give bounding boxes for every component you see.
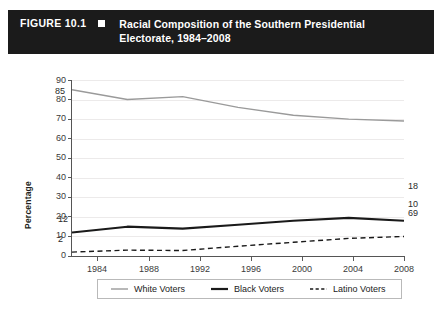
x-tick-label-1988: 1988 (129, 264, 169, 274)
y-axis-title: Percentage (23, 160, 33, 250)
x-tick-label-2000: 2000 (282, 264, 322, 274)
legend-label-latino-voters: Latino Voters (333, 284, 386, 294)
y-tick-label-40: 40 (44, 173, 66, 182)
x-tick-mark-1992 (200, 257, 201, 261)
figure-title-line-1: Racial Composition of the Southern Presi… (119, 17, 365, 31)
chart-lines (72, 80, 404, 256)
x-tick-label-1992: 1992 (180, 264, 220, 274)
chart-area: Percentage 90 80 70 60 50 40 30 20 10 0 (0, 56, 442, 310)
point-label-black-2008: 18 (408, 181, 418, 191)
x-tick-mark-1996 (251, 257, 252, 261)
x-tick-label-2004: 2004 (333, 264, 373, 274)
legend-label-black-voters: Black Voters (234, 284, 284, 294)
legend-item-white-voters[interactable]: White Voters (111, 284, 185, 294)
point-label-white-2008: 69 (408, 208, 418, 218)
series-line-latino-voters (72, 236, 404, 252)
point-label-white-1984: 85 (55, 86, 65, 96)
chart-legend: White Voters Black Voters Latino Voters (97, 279, 402, 299)
series-line-black-voters (72, 218, 404, 233)
point-label-latino-2008: 10 (408, 199, 418, 209)
figure-header-bar: FIGURE 10.1 Racial Composition of the So… (8, 10, 434, 54)
legend-swatch-white-voters-icon (111, 285, 128, 293)
legend-swatch-black-voters-icon (211, 285, 228, 293)
figure-number-label: FIGURE 10.1 (20, 17, 86, 30)
point-label-latino-1984: 2 (58, 234, 63, 244)
legend-item-latino-voters[interactable]: Latino Voters (310, 284, 386, 294)
x-tick-label-1984: 1984 (77, 264, 117, 274)
y-tick-label-0: 0 (44, 251, 66, 260)
x-tick-mark-1988 (149, 257, 150, 261)
y-tick-label-50: 50 (44, 153, 66, 162)
x-tick-label-2008: 2008 (384, 264, 424, 274)
x-tick-label-1996: 1996 (231, 264, 271, 274)
figure-title: Racial Composition of the Southern Presi… (119, 17, 365, 45)
legend-swatch-latino-voters-icon (310, 285, 327, 293)
y-tick-label-90: 90 (44, 76, 66, 85)
x-axis-line (71, 256, 405, 257)
legend-item-black-voters[interactable]: Black Voters (211, 284, 284, 294)
y-tick-label-60: 60 (44, 134, 66, 143)
legend-label-white-voters: White Voters (134, 284, 185, 294)
x-tick-mark-2000 (302, 257, 303, 261)
y-tick-label-70: 70 (44, 114, 66, 123)
x-tick-mark-1984 (97, 257, 98, 261)
figure-container: FIGURE 10.1 Racial Composition of the So… (0, 0, 442, 310)
x-tick-mark-2008 (404, 257, 405, 261)
point-label-black-1984: 12 (58, 214, 68, 224)
series-line-white-voters (72, 90, 404, 121)
x-tick-mark-2004 (353, 257, 354, 261)
y-tick-label-30: 30 (44, 192, 66, 201)
square-bullet-icon (98, 20, 105, 27)
figure-title-line-2: Electorate, 1984–2008 (119, 31, 365, 45)
y-tick-label-80: 80 (44, 95, 66, 104)
